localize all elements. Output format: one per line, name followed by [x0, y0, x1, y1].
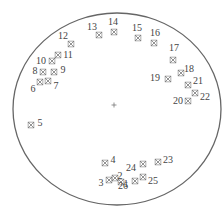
point-label: 3: [99, 178, 104, 188]
point-marker-icon: [111, 29, 118, 36]
point-label: 25: [148, 176, 158, 186]
point-marker-icon: [140, 161, 147, 168]
point-marker-icon: [192, 90, 199, 97]
point-label: 19: [150, 73, 160, 83]
point-marker-icon: [51, 69, 58, 76]
point-marker-icon: [49, 58, 56, 65]
point-marker-icon: [135, 35, 142, 42]
point-label: 24: [126, 163, 136, 173]
point-marker-icon: [106, 177, 113, 184]
point-marker-icon: [185, 98, 192, 105]
point-label: 26: [118, 181, 128, 191]
point-marker-icon: [40, 69, 47, 76]
point-marker-icon: [45, 78, 52, 85]
point-label: 7: [54, 81, 59, 91]
point-label: 18: [184, 64, 194, 74]
point-label: 4: [111, 155, 116, 165]
point-marker-icon: [28, 122, 35, 129]
point-label: 17: [169, 43, 179, 53]
point-label: 6: [31, 84, 36, 94]
point-marker-icon: [185, 82, 192, 89]
point-label: 21: [193, 76, 203, 86]
point-label: 12: [58, 31, 68, 41]
point-marker-icon: [55, 52, 62, 59]
point-marker-icon: [37, 79, 44, 86]
point-marker-icon: [170, 57, 177, 64]
point-label: 13: [87, 22, 97, 32]
point-label: 22: [200, 92, 210, 102]
center-cross-icon: [112, 103, 117, 108]
point-marker-icon: [102, 160, 109, 167]
point-marker-icon: [132, 178, 139, 185]
point-label: 15: [132, 23, 142, 33]
point-label: 5: [38, 118, 43, 128]
point-marker-icon: [151, 40, 158, 47]
point-label: 10: [36, 56, 46, 66]
point-label: 16: [150, 28, 160, 38]
point-label: 20: [173, 96, 183, 106]
point-label: 14: [108, 17, 118, 27]
point-label: 9: [61, 65, 66, 75]
point-label: 11: [63, 50, 73, 60]
point-marker-icon: [68, 41, 75, 48]
point-marker-icon: [96, 32, 103, 39]
point-label: 8: [33, 66, 38, 76]
point-marker-icon: [140, 174, 147, 181]
point-label: 23: [163, 155, 173, 165]
diagram-canvas: 1234567891011121314151617181920212223242…: [0, 0, 223, 216]
point-marker-icon: [155, 159, 162, 166]
point-marker-icon: [165, 76, 172, 83]
